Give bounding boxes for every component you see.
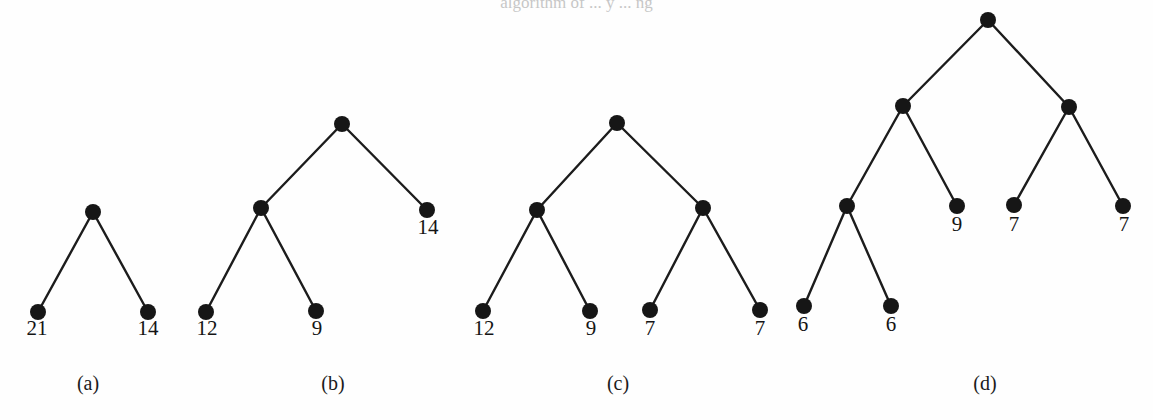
tree-leaf-node bbox=[1006, 197, 1022, 213]
tree-edge bbox=[537, 123, 617, 210]
tree-internal-node bbox=[334, 116, 350, 132]
tree-edge bbox=[537, 210, 590, 311]
tree-edge bbox=[483, 210, 537, 311]
tree-d: 97766(d) bbox=[796, 12, 1131, 395]
figure-root: algorithm of ... y ... ng 2114(a)14129(b… bbox=[0, 0, 1153, 420]
tree-a: 2114(a) bbox=[27, 204, 160, 395]
tree-c: 12977(c) bbox=[474, 115, 769, 395]
tree-internal-node bbox=[895, 98, 911, 114]
tree-node-label: 7 bbox=[755, 316, 766, 340]
huffman-tree-diagram: 2114(a)14129(b)12977(c)97766(d) bbox=[0, 0, 1153, 420]
subfigure-caption-d: (d) bbox=[973, 372, 996, 395]
tree-internal-node bbox=[253, 200, 269, 216]
tree-edge bbox=[342, 124, 427, 210]
tree-node-label: 12 bbox=[197, 316, 218, 340]
tree-internal-node bbox=[839, 198, 855, 214]
tree-node-label: 9 bbox=[586, 316, 597, 340]
tree-node-label: 7 bbox=[645, 316, 656, 340]
tree-node-label: 9 bbox=[312, 316, 323, 340]
tree-edge bbox=[1014, 107, 1069, 205]
tree-edge bbox=[847, 106, 903, 206]
tree-internal-node bbox=[609, 115, 625, 131]
tree-internal-node bbox=[980, 12, 996, 28]
tree-b: 14129(b) bbox=[197, 116, 440, 395]
tree-internal-node bbox=[695, 200, 711, 216]
tree-internal-node bbox=[529, 202, 545, 218]
subfigure-caption-c: (c) bbox=[607, 372, 629, 395]
tree-internal-node bbox=[85, 204, 101, 220]
tree-edge bbox=[988, 20, 1069, 107]
tree-node-label: 6 bbox=[798, 312, 809, 336]
tree-node-label: 12 bbox=[474, 316, 495, 340]
tree-node-label: 7 bbox=[1119, 212, 1130, 236]
tree-edge bbox=[261, 208, 316, 311]
tree-edge bbox=[847, 206, 891, 306]
tree-edge bbox=[93, 212, 148, 312]
tree-node-label: 14 bbox=[138, 316, 160, 340]
tree-edge bbox=[650, 208, 703, 310]
tree-edge bbox=[804, 206, 847, 306]
tree-edge bbox=[38, 212, 93, 312]
tree-edge bbox=[903, 20, 988, 106]
subfigure-caption-b: (b) bbox=[321, 372, 344, 395]
tree-edge bbox=[206, 208, 261, 312]
subfigure-caption-a: (a) bbox=[77, 372, 99, 395]
tree-node-label: 7 bbox=[1009, 212, 1020, 236]
tree-edge bbox=[1069, 107, 1123, 206]
tree-edge bbox=[261, 124, 342, 208]
tree-node-label: 9 bbox=[952, 212, 963, 236]
tree-internal-node bbox=[1061, 99, 1077, 115]
tree-node-label: 21 bbox=[27, 316, 48, 340]
tree-edge bbox=[617, 123, 703, 208]
tree-edge bbox=[903, 106, 957, 206]
tree-edge bbox=[703, 208, 760, 310]
tree-node-label: 14 bbox=[418, 215, 440, 239]
tree-node-label: 6 bbox=[886, 312, 897, 336]
